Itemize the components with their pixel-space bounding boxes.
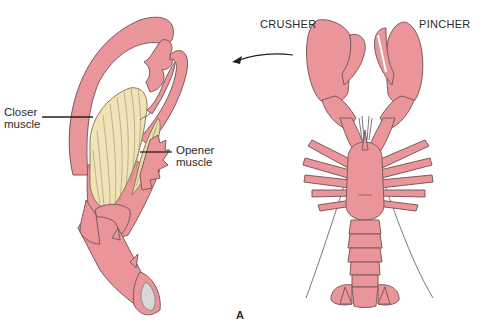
cutaway-claw xyxy=(69,17,187,315)
lobster-claw-diagram xyxy=(0,0,482,328)
opener-muscle-label-line1: Opener xyxy=(176,144,214,156)
whole-lobster xyxy=(303,20,433,308)
panel-label: A xyxy=(236,309,244,321)
opener-muscle-label-line2: muscle xyxy=(176,156,214,168)
crusher-label: CRUSHER xyxy=(260,18,317,30)
pincher-label: PINCHER xyxy=(419,18,471,30)
closer-muscle-label: Closer muscle xyxy=(4,106,40,130)
arrow-icon xyxy=(232,54,293,64)
closer-muscle-label-line1: Closer xyxy=(4,106,40,118)
closer-muscle-label-line2: muscle xyxy=(4,118,40,130)
opener-muscle-label: Opener muscle xyxy=(176,144,214,168)
